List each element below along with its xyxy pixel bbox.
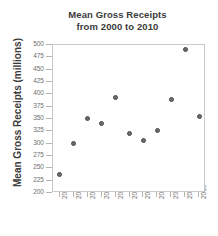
data-point <box>183 47 188 52</box>
y-axis-tick-label: 425 <box>18 78 44 85</box>
x-axis-tick <box>59 192 60 197</box>
chart-title: Mean Gross Receipts from 2000 to 2010 <box>30 9 205 33</box>
y-axis-tick-label: 375 <box>18 103 44 110</box>
y-axis-tick-label: 325 <box>18 127 44 134</box>
chart-title-line-1: Mean Gross Receipts <box>30 9 205 21</box>
data-point <box>127 131 132 136</box>
y-axis-tick-label: 400 <box>18 90 44 97</box>
y-axis-tick-label: 500 <box>18 41 44 48</box>
x-axis-tick <box>73 192 74 197</box>
data-point <box>57 172 62 177</box>
x-axis-tick <box>101 192 102 197</box>
data-point <box>71 141 76 146</box>
x-axis-tick <box>129 192 130 197</box>
y-axis-tick-label: 450 <box>18 66 44 73</box>
data-point <box>141 138 146 143</box>
data-point <box>169 97 174 102</box>
y-axis-tick-label: 475 <box>18 53 44 60</box>
y-axis-tick-label: 250 <box>18 164 44 171</box>
scatter-chart: Mean Gross Receipts from 2000 to 2010 Me… <box>0 0 218 236</box>
x-axis-tick <box>198 192 199 197</box>
y-axis-tick-label: 300 <box>18 140 44 147</box>
data-point <box>197 114 202 119</box>
data-point <box>99 121 104 126</box>
x-axis-tick <box>87 192 88 197</box>
y-axis-tick-label: 200 <box>18 189 44 196</box>
x-axis-tick <box>184 192 185 197</box>
y-axis-tick-label: 350 <box>18 115 44 122</box>
plot-area <box>53 45 204 191</box>
data-point <box>113 95 118 100</box>
plot-frame <box>52 44 205 192</box>
chart-title-line-2: from 2000 to 2010 <box>30 21 205 33</box>
y-axis-tick <box>46 192 52 193</box>
x-axis-tick <box>115 192 116 197</box>
y-axis-tick-label: 225 <box>18 177 44 184</box>
data-point <box>155 128 160 133</box>
data-point <box>85 116 90 121</box>
y-axis-tick-label: 275 <box>18 152 44 159</box>
